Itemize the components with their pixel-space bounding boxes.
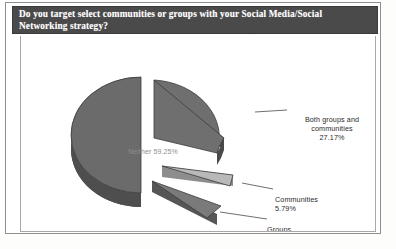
page-title: Do you target select communities or grou… — [19, 9, 372, 32]
figure-frame: Do you target select communities or grou… — [5, 2, 381, 234]
chart-title-bar: Do you target select communities or grou… — [12, 6, 378, 34]
slice-label-groups: Groups 7.79% — [267, 216, 347, 232]
leader-line-groups — [220, 212, 267, 219]
pie-chart: Both groups and communities 27.17% Commu… — [21, 36, 376, 232]
slice-label-communities-name: Communities — [275, 195, 318, 204]
slice-label-both-percent: 27.17% — [288, 133, 376, 142]
leader-line-both — [255, 110, 287, 112]
slice-label-neither: Neither 59.25% — [122, 148, 184, 157]
slice-label-neither-percent: 59.25% — [153, 148, 177, 155]
slice-label-communities-percent: 5.79% — [275, 204, 361, 213]
slice-label-neither-name: Neither — [128, 148, 151, 155]
chart-panel: Both groups and communities 27.17% Commu… — [20, 36, 376, 232]
slice-label-both-groups-and-communities: Both groups and communities 27.17% — [288, 106, 376, 151]
slice-label-groups-name: Groups — [267, 225, 291, 232]
slice-groups — [152, 181, 221, 218]
slice-label-both-name: Both groups and communities — [305, 115, 359, 133]
scanned-page: Do you target select communities or grou… — [0, 0, 396, 249]
leader-line-communities — [242, 183, 273, 189]
